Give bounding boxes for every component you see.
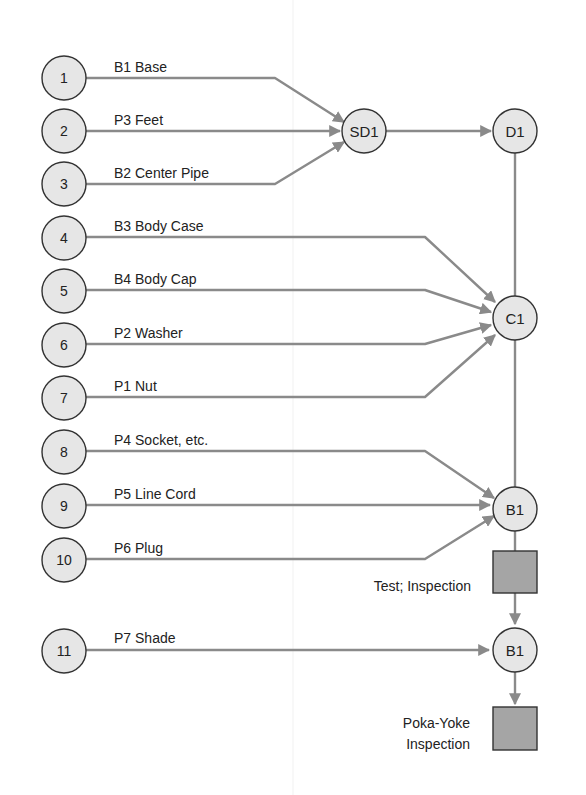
component-label: P6 Plug [114,540,163,556]
component-label: P7 Shade [114,630,176,646]
operation-label: B1 [506,642,524,659]
component-number: 5 [60,283,68,299]
component-number: 6 [60,337,68,353]
flows-to-c1 [86,237,495,397]
operation-label: SD1 [349,123,378,140]
inspection-label: Test; Inspection [374,578,471,594]
component-label: P2 Washer [114,325,183,341]
component-label: P1 Nut [114,378,157,394]
operation-node-c1: C1 [493,296,537,340]
inspection-box-icon [493,707,537,750]
component-number: 9 [60,498,68,514]
assembly-chart: 1 B1 Base 2 P3 Feet 3 B2 Center Pipe 4 B… [0,0,586,795]
component-number: 10 [56,552,72,568]
component-number: 8 [60,444,68,460]
component-number: 11 [57,643,72,659]
component-label: B4 Body Cap [114,271,197,287]
component-label: P4 Socket, etc. [114,432,208,448]
flow-line-5 [86,290,491,312]
operation-node-sd1: SD1 [342,109,386,153]
component-number: 4 [60,230,68,246]
component-label: B3 Body Case [114,218,204,234]
pokayoke-inspection: Poka-Yoke Inspection [403,707,537,752]
inspection-box-icon [493,551,537,593]
component-label: P5 Line Cord [114,486,196,502]
component-label: B1 Base [114,59,167,75]
inspection-label-line2: Inspection [406,736,470,752]
component-label: B2 Center Pipe [114,165,209,181]
operation-node-b1-second: B1 [493,628,537,672]
operation-label: C1 [505,310,524,327]
operation-label: D1 [505,123,524,140]
component-number: 2 [60,123,68,139]
component-number: 7 [60,390,68,406]
component-number: 1 [60,70,68,86]
operation-label: B1 [506,501,524,518]
operation-node-d1: D1 [493,109,537,153]
component-number: 3 [60,176,68,192]
component-label: P3 Feet [114,112,163,128]
operation-node-b1-first: B1 [493,487,537,531]
test-inspection: Test; Inspection [374,551,537,594]
inspection-label-line1: Poka-Yoke [403,715,470,731]
